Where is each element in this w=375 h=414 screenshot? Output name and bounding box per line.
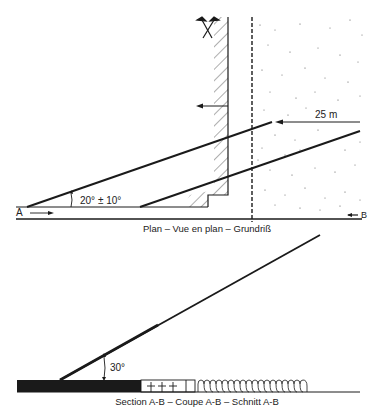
distance-label: 25 m — [315, 109, 337, 120]
stippled-area — [258, 19, 363, 210]
section-angle-label: 30° — [110, 362, 125, 373]
upper-slant-line — [27, 122, 272, 207]
section-slant-thick — [60, 325, 158, 380]
coil-segment — [198, 380, 307, 392]
point-b-label: B — [361, 210, 367, 220]
plan-view: 25 m 20° ± 10° A B Plan – Vue en plan – … — [16, 17, 367, 234]
angle-marker — [70, 190, 73, 207]
section-caption: Section A-B – Coupe A-B – Schnitt A-B — [115, 396, 279, 407]
section-view: 30° Section A-B – Coupe A-B – Schnitt A-… — [17, 235, 360, 407]
point-a-label: A — [16, 207, 23, 218]
point-a-arrow — [30, 211, 54, 215]
distance-arrow — [275, 120, 360, 125]
timber-segment — [141, 380, 195, 392]
diagram-canvas: 25 m 20° ± 10° A B Plan – Vue en plan – … — [0, 0, 375, 414]
lower-slant-line — [140, 131, 360, 207]
plan-caption: Plan – Vue en plan – Grundriß — [143, 223, 271, 234]
point-b-arrow — [347, 213, 358, 217]
filled-segment — [17, 380, 141, 392]
plan-angle-label: 20° ± 10° — [80, 195, 121, 206]
